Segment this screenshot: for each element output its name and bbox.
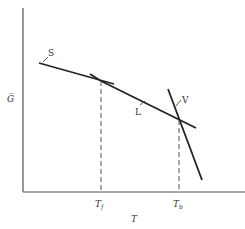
v-leader <box>176 100 181 106</box>
gibbs-energy-diagram: S L V G̅ Tf Tb T <box>0 0 245 229</box>
y-axis-label: G̅ <box>7 93 14 104</box>
tb-sub: b <box>179 203 183 210</box>
vapor-label: V <box>181 95 189 105</box>
tf-sub: f <box>100 203 105 211</box>
liquid-label: L <box>135 107 141 117</box>
x-axis-label: T <box>131 214 138 224</box>
tb-label: Tb <box>173 199 183 210</box>
solid-label: S <box>48 48 54 58</box>
tf-label: Tf <box>95 199 105 211</box>
solid-line <box>39 63 114 84</box>
